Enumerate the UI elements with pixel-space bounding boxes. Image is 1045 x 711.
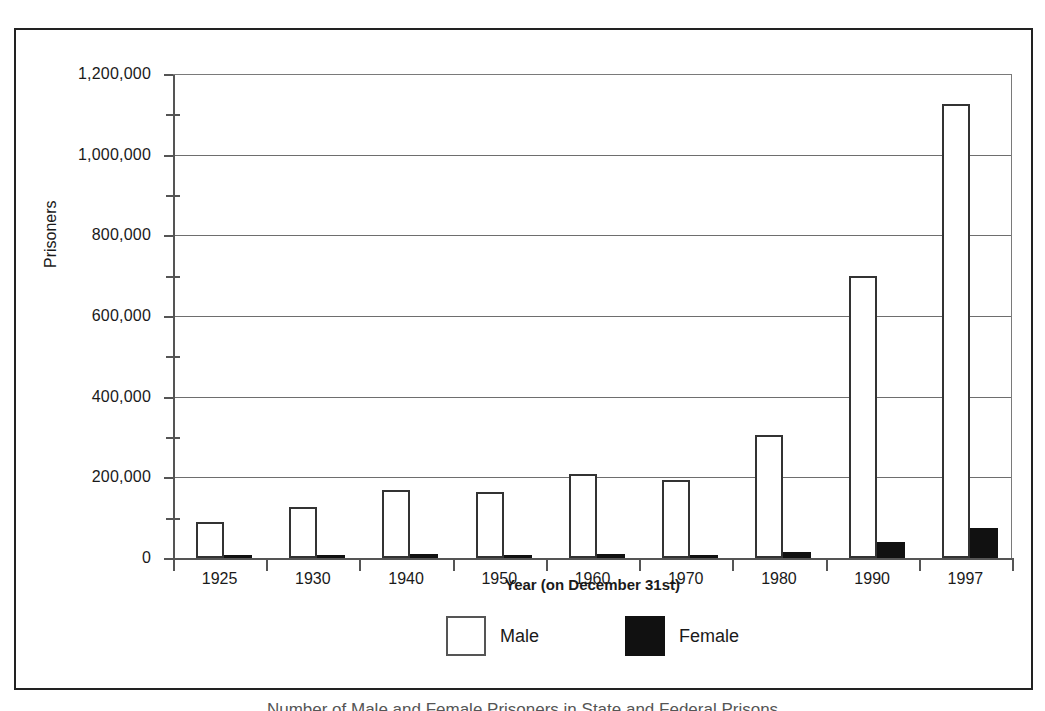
y-axis-label: 0 [16, 549, 151, 567]
gridline [173, 558, 1012, 560]
y-axis-tick-major [164, 558, 173, 560]
bar-group [361, 74, 454, 558]
x-axis-title: Year (on December 31st) [173, 576, 1012, 593]
figure-caption: Number of Male and Female Prisoners in S… [60, 700, 985, 711]
x-axis-tick [1012, 558, 1014, 571]
bar-group [548, 74, 641, 558]
bar-female [504, 555, 532, 558]
y-axis-label: 600,000 [16, 307, 151, 325]
x-axis-tick [639, 558, 641, 571]
bar-female [877, 542, 905, 558]
x-axis-tick [919, 558, 921, 571]
y-axis-label: 400,000 [16, 388, 151, 406]
legend-swatch-female [625, 616, 665, 656]
legend-swatch-male [446, 616, 486, 656]
bar-group [268, 74, 361, 558]
y-axis-label: 1,200,000 [16, 65, 151, 83]
chart-legend: MaleFemale [173, 616, 1012, 656]
bar-female [597, 554, 625, 558]
y-axis-tick-major [164, 74, 173, 76]
x-axis-tick [359, 558, 361, 571]
x-axis-tick [826, 558, 828, 571]
y-axis-tick-major [164, 477, 173, 479]
legend-entry: Male [446, 616, 539, 656]
bar-female [410, 554, 438, 558]
bar-female [317, 555, 345, 558]
bar-female [970, 528, 998, 558]
y-axis-title: Prisoners [42, 242, 60, 268]
bar-female [783, 552, 811, 558]
x-axis-tick [546, 558, 548, 571]
y-axis-tick-major [164, 235, 173, 237]
y-axis-label: 1,000,000 [16, 146, 151, 164]
x-axis-tick [173, 558, 175, 571]
bar-group [455, 74, 548, 558]
bar-male [942, 104, 970, 558]
bar-group [828, 74, 921, 558]
bar-female [224, 555, 252, 558]
bar-group [734, 74, 827, 558]
y-axis-tick-major [164, 155, 173, 157]
bar-male [755, 435, 783, 558]
y-axis-tick-major [164, 316, 173, 318]
x-axis-tick [266, 558, 268, 571]
bar-group [175, 74, 268, 558]
bar-male [476, 492, 504, 558]
bar-group [921, 74, 1014, 558]
legend-entry: Female [625, 616, 739, 656]
x-axis-tick [732, 558, 734, 571]
bar-male [662, 480, 690, 558]
bar-group [641, 74, 734, 558]
bar-female [690, 555, 718, 558]
y-axis-label: 800,000 [16, 226, 151, 244]
bar-male [382, 490, 410, 558]
legend-label: Male [500, 626, 539, 647]
bar-male [196, 522, 224, 558]
y-axis-tick-major [164, 397, 173, 399]
bar-male [289, 507, 317, 558]
bar-male [569, 474, 597, 558]
plot-area [173, 74, 1012, 558]
x-axis-tick [453, 558, 455, 571]
legend-label: Female [679, 626, 739, 647]
y-axis-label: 200,000 [16, 468, 151, 486]
figure-frame: Prisoners 0200,000400,000600,000800,0001… [14, 28, 1033, 690]
bar-male [849, 276, 877, 558]
